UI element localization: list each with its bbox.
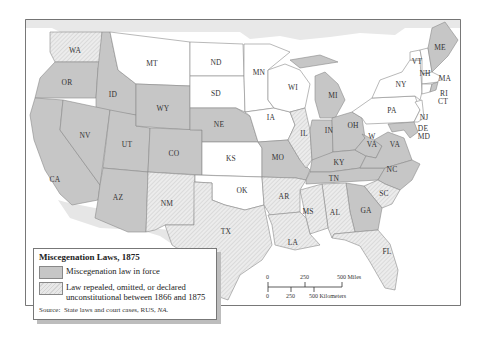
label-MD: MD [418, 132, 431, 141]
state-RI [430, 82, 438, 92]
scale-miles-250: 250 [300, 274, 309, 280]
label-PA: PA [387, 106, 397, 115]
scale-bar: 0 250 500 Miles 0 250 500 Kilometers [266, 273, 366, 301]
swatch-repealed [39, 282, 63, 295]
label-AR: AR [279, 192, 290, 201]
label-TN: TN [329, 174, 340, 183]
label-MO: MO [272, 153, 285, 162]
label-VA: VA [390, 140, 401, 149]
map-legend: Miscegenation Laws, 1875 Miscegenation l… [33, 248, 217, 320]
label-CA: CA [50, 175, 61, 184]
label-NJ: NJ [420, 113, 429, 122]
source-text: State laws and court cases, RUS, [64, 306, 156, 314]
label-VT: VT [412, 57, 423, 66]
source-prefix: Source: [39, 306, 60, 314]
label-GA: GA [360, 206, 372, 215]
label-MN: MN [253, 68, 266, 77]
label-KS: KS [226, 154, 236, 163]
source-italic: NA. [158, 306, 169, 314]
label-NE: NE [214, 120, 225, 129]
label-NH: NH [419, 69, 431, 78]
label-AZ: AZ [113, 193, 124, 202]
label-MI: MI [328, 91, 338, 100]
label-NV: NV [79, 131, 91, 140]
label-ND: ND [210, 58, 222, 67]
label-FL: FL [382, 247, 391, 256]
label-ID: ID [109, 90, 118, 99]
label-WI: WI [288, 83, 298, 92]
label-SC: SC [379, 189, 389, 198]
label-IA: IA [267, 113, 276, 122]
label-IL: IL [300, 129, 308, 138]
label-OK: OK [236, 186, 248, 195]
label-ME: ME [434, 43, 446, 52]
scale-miles-500: 500 Miles [337, 274, 361, 280]
label-LA: LA [288, 238, 299, 247]
label-NY: NY [395, 80, 407, 89]
label-IN: IN [325, 126, 334, 135]
label-MA: MA [439, 74, 452, 83]
label-MT: MT [146, 59, 158, 68]
scale-km-0: 0 [266, 293, 269, 299]
legend-label-in-force: Miscegenation law in force [66, 266, 160, 276]
label-OR: OR [62, 78, 73, 87]
legend-title: Miscegenation Laws, 1875 [39, 252, 140, 262]
swatch-in-force [39, 266, 63, 279]
label-SD: SD [211, 89, 221, 98]
label-OH: OH [347, 121, 359, 130]
label-TX: TX [221, 227, 232, 236]
legend-label-repealed-line1: Law repealed, omitted, or declared [66, 282, 186, 292]
label-WY: WY [157, 104, 170, 113]
label-WV-bottom: VA [367, 140, 378, 149]
label-KY: KY [333, 158, 345, 167]
scale-km-500: 500 Kilometers [309, 293, 346, 299]
label-CT: CT [438, 97, 448, 106]
scale-miles-0: 0 [266, 274, 269, 280]
label-WA: WA [69, 46, 81, 55]
label-NC: NC [387, 165, 398, 174]
label-MS: MS [302, 207, 313, 216]
scale-km-250: 250 [286, 293, 295, 299]
label-NM: NM [161, 199, 174, 208]
label-CO: CO [169, 149, 180, 158]
legend-label-repealed-line2: unconstitutional between 1866 and 1875 [66, 292, 205, 302]
label-AL: AL [330, 208, 341, 217]
legend-source: Source: State laws and court cases, RUS,… [39, 306, 168, 314]
label-UT: UT [122, 140, 133, 149]
